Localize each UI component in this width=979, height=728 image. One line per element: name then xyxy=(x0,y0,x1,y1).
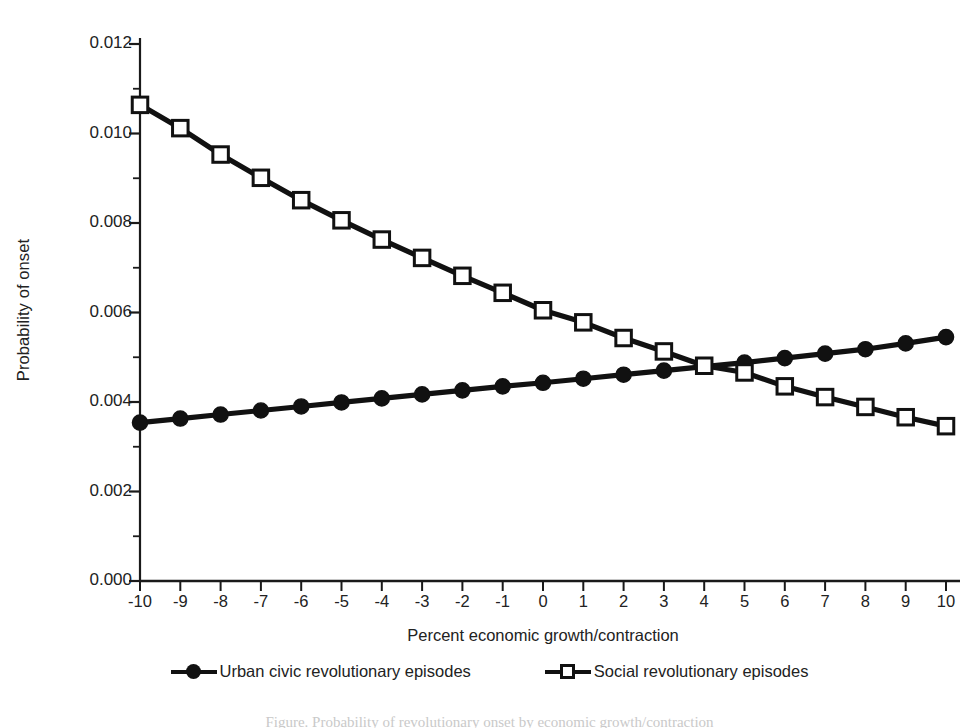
x-tick-label: 0 xyxy=(521,592,565,611)
x-tick-label: 7 xyxy=(803,592,847,611)
y-tick-label: 0.010 xyxy=(60,123,132,143)
x-tick-label: 3 xyxy=(642,592,686,611)
x-tick-label: -1 xyxy=(481,592,525,611)
x-tick-label: -5 xyxy=(320,592,364,611)
y-tick-label: 0.000 xyxy=(60,570,132,590)
y-tick-label: 0.006 xyxy=(60,302,132,322)
chart-figure: Probability of onset 0.0000.0020.0040.00… xyxy=(0,0,979,728)
x-tick-label: 6 xyxy=(763,592,807,611)
x-tick-label: 1 xyxy=(561,592,605,611)
x-tick-label: -3 xyxy=(400,592,444,611)
x-tick-label: -9 xyxy=(158,592,202,611)
x-tick-label: -2 xyxy=(440,592,484,611)
y-tick-label: 0.012 xyxy=(60,33,132,53)
x-tick-label: -7 xyxy=(239,592,283,611)
y-axis-title: Probability of onset xyxy=(14,30,40,590)
x-tick-label: 4 xyxy=(682,592,726,611)
legend-item-social-revolutionary: Social revolutionary episodes xyxy=(545,662,809,681)
x-tick-label: 10 xyxy=(924,592,968,611)
y-tick-label: 0.004 xyxy=(60,391,132,411)
x-axis-tick-labels: -10-9-8-7-6-5-4-3-2-1012345678910 xyxy=(0,592,979,622)
x-tick-label: 5 xyxy=(723,592,767,611)
x-tick-label: 2 xyxy=(602,592,646,611)
x-tick-label: -6 xyxy=(279,592,323,611)
series-2 xyxy=(132,97,954,434)
legend-label: Urban civic revolutionary episodes xyxy=(219,662,471,681)
figure-caption: Figure. Probability of revolutionary ons… xyxy=(0,714,979,728)
chart-legend: Urban civic revolutionary episodes Socia… xyxy=(0,662,979,681)
x-tick-label: 9 xyxy=(884,592,928,611)
legend-label: Social revolutionary episodes xyxy=(593,662,809,681)
series-1 xyxy=(132,330,953,431)
x-axis-ticks xyxy=(140,581,946,591)
y-tick-label: 0.002 xyxy=(60,481,132,501)
x-tick-label: 8 xyxy=(843,592,887,611)
legend-item-urban-civic: Urban civic revolutionary episodes xyxy=(171,662,471,681)
x-tick-label: -4 xyxy=(360,592,404,611)
x-tick-label: -10 xyxy=(118,592,162,611)
x-axis-title: Percent economic growth/contraction xyxy=(140,626,946,645)
x-tick-label: -8 xyxy=(199,592,243,611)
y-tick-label: 0.008 xyxy=(60,212,132,232)
axis-lines xyxy=(140,38,960,581)
filled-circle-marker-icon xyxy=(171,663,217,681)
open-square-marker-icon xyxy=(545,663,591,681)
